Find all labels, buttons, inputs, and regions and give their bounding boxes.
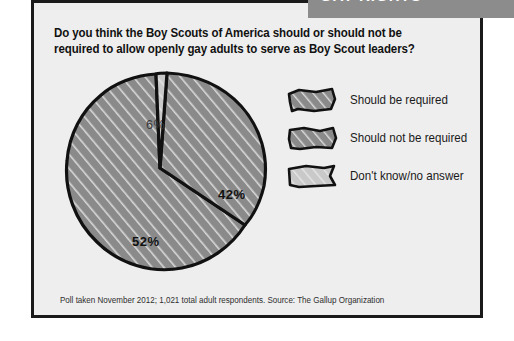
- legend-item-should-be-required: Should be required: [286, 81, 480, 119]
- legend-swatch-light-icon: [286, 163, 338, 189]
- pie-label-52: 52%: [132, 234, 160, 249]
- pie-chart: 6% 42% 52%: [40, 51, 290, 291]
- legend-item-should-not-be-required: Should not be required: [286, 119, 480, 157]
- legend-swatch-dark-icon: [286, 87, 338, 113]
- poll-card-inner: Do you think the Boy Scouts of America s…: [34, 3, 480, 315]
- poll-footnote: Poll taken November 2012; 1,021 total ad…: [60, 295, 444, 305]
- pie-chart-svg: [40, 51, 290, 291]
- legend-item-dont-know: Don't know/no answer: [286, 157, 480, 195]
- legend-label-should-not-be-required: Should not be required: [350, 131, 467, 145]
- section-banner-label: GAY RIGHTS: [320, 0, 422, 4]
- section-banner: GAY RIGHTS: [308, 0, 514, 18]
- poll-card: Do you think the Boy Scouts of America s…: [31, 0, 483, 318]
- pie-label-42: 42%: [218, 187, 246, 202]
- chart-legend: Should be required Should not be require…: [286, 81, 480, 195]
- legend-label-dont-know: Don't know/no answer: [350, 169, 464, 183]
- pie-label-6: 6%: [146, 118, 165, 132]
- legend-label-should-be-required: Should be required: [350, 93, 448, 107]
- legend-swatch-dark-2-icon: [286, 125, 338, 151]
- screenshot-root: Do you think the Boy Scouts of America s…: [0, 0, 514, 341]
